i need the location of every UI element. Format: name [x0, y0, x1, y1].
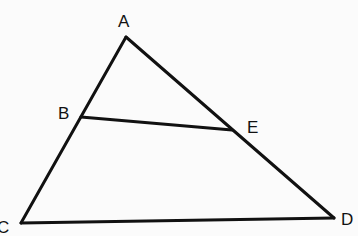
- segment-ad: [126, 37, 334, 218]
- label-c: C: [0, 218, 9, 236]
- label-b: B: [58, 104, 69, 123]
- segment-ac: [21, 37, 126, 223]
- label-a: A: [118, 12, 130, 31]
- segment-cd: [21, 218, 334, 223]
- segment-be: [81, 117, 232, 130]
- label-e: E: [247, 118, 258, 137]
- label-d: D: [341, 210, 353, 229]
- triangle-diagram: A B E C D: [0, 0, 358, 236]
